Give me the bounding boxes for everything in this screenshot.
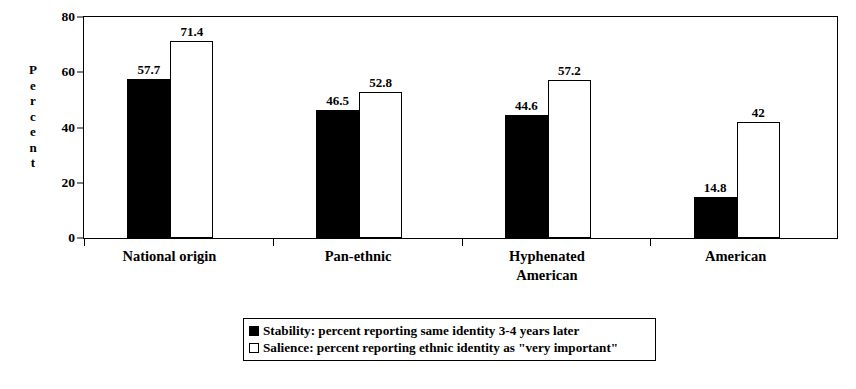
legend-item-stability: Stability: percent reporting same identi… [249,322,650,339]
y-axis-tick-mark [77,127,84,128]
chart-legend: Stability: percent reporting same identi… [243,318,656,361]
y-axis-title-letter: r [22,93,44,109]
legend-item-label: Stability: percent reporting same identi… [263,322,579,339]
y-axis-tick-mark [77,17,84,18]
bar-value-label: 57.7 [138,62,161,78]
x-axis-category-labels: National originPan-ethnicHyphenated Amer… [83,247,838,307]
bar-value-label: 46.5 [326,93,349,109]
bar-salience: 71.4 [170,41,213,238]
x-axis-category-label: National origin [79,247,259,266]
bar-value-label: 57.2 [558,63,581,79]
bar-stability: 14.8 [694,197,737,238]
x-axis-category-label: American [646,247,826,266]
y-axis-tick-mark [77,238,84,239]
plot-area: 020406080 57.771.446.552.844.657.214.842 [83,16,838,239]
bars-layer: 57.771.446.552.844.657.214.842 [84,17,837,238]
bar-stability: 57.7 [127,79,170,238]
bar-stability: 44.6 [505,115,548,238]
bar-value-label: 14.8 [704,180,727,196]
bar-chart: P e r c e n t 020406080 57.771.446.552.8… [0,0,856,389]
y-axis-title: P e r c e n t [22,62,44,171]
legend-item-label: Salience: percent reporting ethnic ident… [263,339,618,356]
bar-salience: 57.2 [548,80,591,238]
y-axis-title-letter: n [22,140,44,156]
x-axis-category-tick [462,238,463,246]
bar-value-label: 71.4 [181,24,204,40]
bar-salience: 52.8 [359,92,402,238]
y-axis-title-letter: e [22,124,44,140]
x-axis-origin-tick [84,238,85,246]
y-axis-title-letter: e [22,78,44,94]
y-axis-title-letter: c [22,109,44,125]
legend-item-salience: Salience: percent reporting ethnic ident… [249,339,650,356]
x-axis-category-tick [650,238,651,246]
legend-swatch-filled-icon [249,326,259,336]
bar-value-label: 42 [752,105,765,121]
legend-swatch-hollow-icon [249,343,259,353]
bar-value-label: 44.6 [515,98,538,114]
x-axis-category-label: Hyphenated American [457,247,637,285]
y-axis-tick-mark [77,72,84,73]
bar-value-label: 52.8 [369,75,392,91]
y-axis-title-letter: P [22,62,44,78]
y-axis-title-letter: t [22,155,44,171]
bar-salience: 42 [737,122,780,238]
y-axis-tick-mark [77,182,84,183]
x-axis-category-tick [273,238,274,246]
x-axis-category-label: Pan-ethnic [268,247,448,266]
bar-stability: 46.5 [316,110,359,238]
